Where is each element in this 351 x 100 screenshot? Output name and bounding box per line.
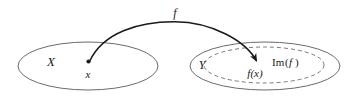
- element-label: x: [85, 68, 91, 80]
- function-mapping-diagram: f X x Y f(x) Im ( f ): [0, 0, 351, 100]
- image-set-label-arg: f: [289, 56, 294, 68]
- image-subset-ellipse: [204, 47, 324, 83]
- mapping-arrow: [90, 22, 257, 62]
- image-element-label: f(x): [247, 67, 263, 80]
- image-set-label: Im ( f ): [272, 56, 299, 69]
- function-label: f: [173, 6, 178, 20]
- domain-point-dot: [86, 59, 90, 63]
- domain-ellipse: [18, 42, 158, 90]
- image-set-label-close-paren: ): [295, 56, 299, 69]
- image-set-label-prefix: Im: [272, 56, 285, 68]
- domain-label: X: [46, 54, 56, 69]
- codomain-label: Y: [199, 58, 207, 72]
